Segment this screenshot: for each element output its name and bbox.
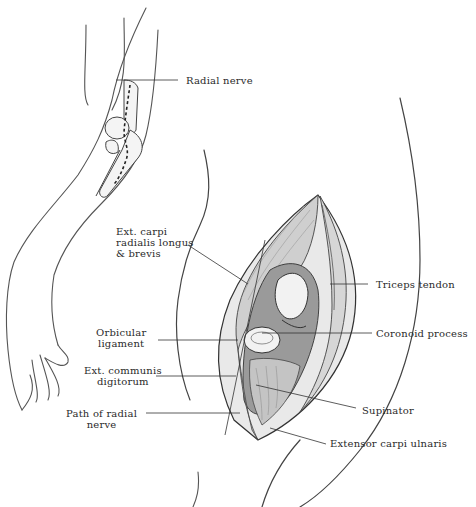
label-radial-nerve: Radial nerve [186,75,253,86]
label-orbicular-ligament: Orbicular ligament [96,327,146,349]
label-path-of-radial-nerve: Path of radial nerve [66,408,137,430]
label-triceps-tendon: Triceps tendon [376,279,455,290]
label-supinator: Supinator [362,405,414,416]
label-extensor-carpi-ulnaris: Extensor carpi ulnaris [330,438,447,449]
arm-bones [96,80,142,197]
radial-head [244,327,280,353]
label-ext-carpi-radialis: Ext. carpi radialis longus & brevis [116,226,194,259]
label-coronoid-process: Coronoid process [376,328,468,339]
label-ext-communis-digitorum: Ext. communis digitorum [84,365,162,387]
